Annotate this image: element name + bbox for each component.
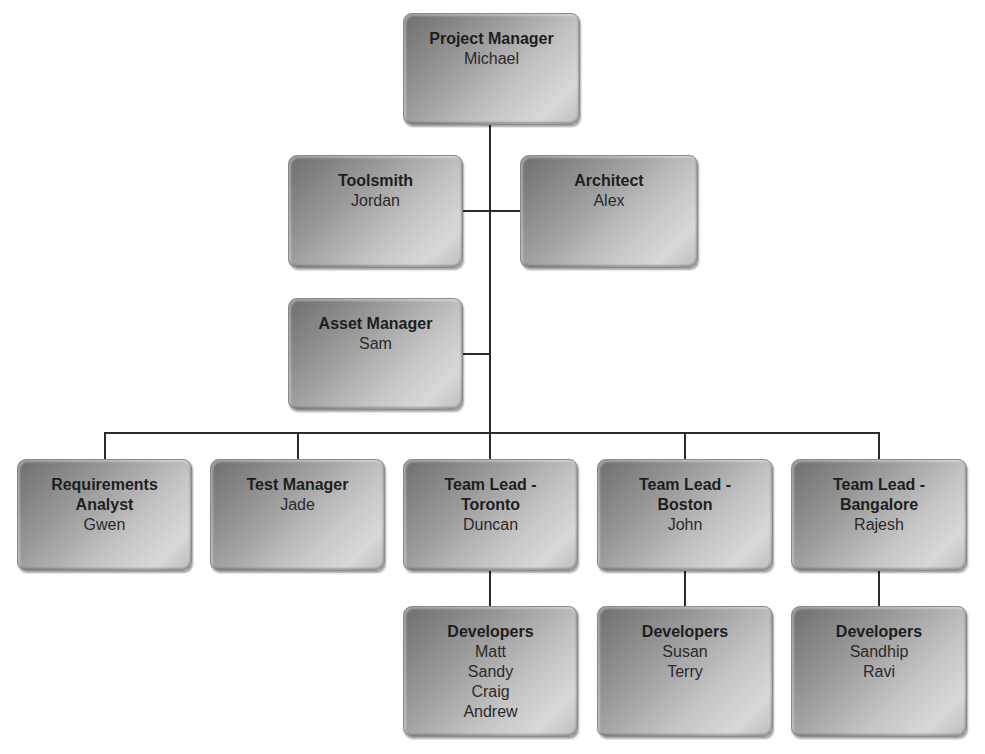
node-person: Craig: [404, 682, 577, 702]
node-test-manager[interactable]: Test Manager Jade: [210, 459, 385, 571]
node-title: Team Lead -: [404, 475, 577, 495]
node-person: Michael: [404, 49, 579, 69]
connector-toolsmith-architect: [462, 210, 521, 212]
node-title: Developers: [404, 622, 577, 642]
connector-bangalore: [878, 432, 880, 460]
node-person: John: [598, 515, 772, 535]
node-developers-toronto[interactable]: Developers Matt Sandy Craig Andrew: [403, 606, 578, 737]
node-title: Team Lead -: [598, 475, 772, 495]
connector-test: [297, 432, 299, 460]
node-person: Terry: [598, 662, 772, 682]
node-title: Test Manager: [211, 475, 384, 495]
node-person: Gwen: [18, 515, 191, 535]
node-person: Andrew: [404, 702, 577, 722]
node-person: Sam: [289, 334, 462, 354]
node-architect[interactable]: Architect Alex: [520, 155, 698, 268]
node-person: Jordan: [289, 191, 462, 211]
node-title-line2: Bangalore: [792, 495, 966, 515]
node-toolsmith[interactable]: Toolsmith Jordan: [288, 155, 463, 268]
node-title-line2: Boston: [598, 495, 772, 515]
node-title: Project Manager: [404, 29, 579, 49]
node-person: Alex: [521, 191, 697, 211]
node-title: Asset Manager: [289, 314, 462, 334]
node-person: Sandhip: [792, 642, 966, 662]
node-title: Developers: [792, 622, 966, 642]
node-person: Susan: [598, 642, 772, 662]
node-person: Rajesh: [792, 515, 966, 535]
node-person: Ravi: [792, 662, 966, 682]
node-title-line2: Analyst: [18, 495, 191, 515]
node-developers-bangalore[interactable]: Developers Sandhip Ravi: [791, 606, 967, 737]
node-developers-boston[interactable]: Developers Susan Terry: [597, 606, 773, 737]
node-title: Team Lead -: [792, 475, 966, 495]
node-title: Architect: [521, 171, 697, 191]
node-person: Jade: [211, 495, 384, 515]
node-project-manager[interactable]: Project Manager Michael: [403, 13, 580, 125]
connector-req: [104, 432, 106, 460]
node-title-line2: Toronto: [404, 495, 577, 515]
node-team-lead-toronto[interactable]: Team Lead - Toronto Duncan: [403, 459, 578, 571]
node-asset-manager[interactable]: Asset Manager Sam: [288, 298, 463, 410]
node-person: Matt: [404, 642, 577, 662]
node-team-lead-boston[interactable]: Team Lead - Boston John: [597, 459, 773, 571]
connector-toronto: [489, 432, 491, 460]
connector-boston: [684, 432, 686, 460]
connector-trunk: [489, 124, 491, 434]
node-person: Sandy: [404, 662, 577, 682]
node-title: Toolsmith: [289, 171, 462, 191]
node-requirements-analyst[interactable]: Requirements Analyst Gwen: [17, 459, 192, 571]
connector-dev-bangalore: [878, 570, 880, 607]
connector-dev-toronto: [489, 570, 491, 607]
node-title: Developers: [598, 622, 772, 642]
connector-dev-boston: [684, 570, 686, 607]
connector-asset: [462, 353, 490, 355]
node-person: Duncan: [404, 515, 577, 535]
node-title: Requirements: [18, 475, 191, 495]
connector-bus: [104, 432, 880, 434]
node-team-lead-bangalore[interactable]: Team Lead - Bangalore Rajesh: [791, 459, 967, 571]
